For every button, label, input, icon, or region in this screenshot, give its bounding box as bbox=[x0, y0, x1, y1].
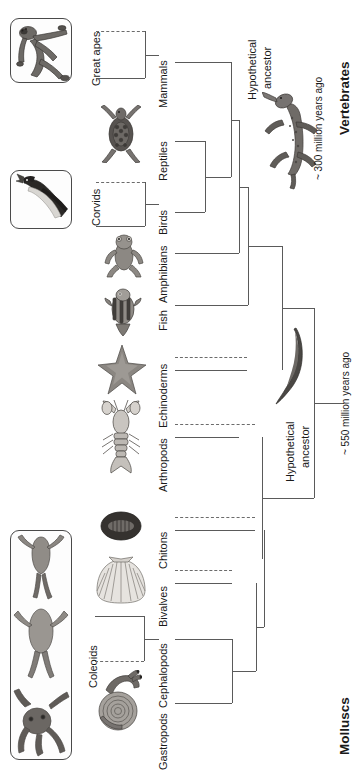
branch-fish bbox=[175, 305, 248, 306]
coleoids-photo bbox=[10, 530, 72, 760]
scallop-illustration bbox=[96, 556, 146, 606]
branch-birds bbox=[175, 212, 205, 213]
branch-mammals bbox=[175, 62, 231, 63]
tip-label-gastropods: Gastropods bbox=[158, 713, 169, 770]
tip-label-cephalopods: Cephalopods bbox=[158, 643, 169, 708]
node-vertebrates-stem bbox=[248, 246, 282, 247]
tip-label-fish: Fish bbox=[158, 310, 169, 331]
tip-label-echinoderms: Echinoderms bbox=[158, 364, 169, 428]
tip-label-mammals: Mammals bbox=[158, 60, 169, 108]
dashed-arthropods-extra bbox=[175, 424, 255, 425]
callout-coleoids-upper bbox=[95, 616, 144, 617]
tetrapod-reptile-illustration bbox=[262, 92, 318, 190]
node-amniotes-stem bbox=[231, 120, 239, 121]
group-title-molluscs: Molluscs bbox=[338, 697, 352, 755]
vertebrate-ancestor-label-line2: ancestor bbox=[262, 47, 273, 89]
callout-coleoids-dashed bbox=[95, 661, 144, 662]
turtle-illustration bbox=[100, 105, 142, 163]
frog-illustration bbox=[104, 232, 144, 278]
great-apes-photo bbox=[10, 18, 72, 83]
time-annotation-300my: ~ 300 million years ago bbox=[314, 77, 324, 180]
branch-cephalopods bbox=[175, 639, 232, 640]
tip-label-birds: Birds bbox=[158, 210, 169, 235]
snail-illustration bbox=[98, 670, 142, 732]
corvids-photo bbox=[10, 170, 72, 229]
node-molluscs bbox=[264, 530, 265, 627]
time-annotation-550my: ~ 550 million years ago bbox=[341, 352, 351, 455]
bilaterian-ancestor-label-line1: Hypothetical bbox=[285, 421, 296, 482]
dashed-chitons-extra bbox=[175, 517, 255, 518]
callout-great-apes-join bbox=[145, 55, 159, 56]
node-plus-bivalves-stem bbox=[256, 627, 264, 628]
branch-reptiles bbox=[175, 141, 205, 142]
branch-gastropods bbox=[175, 703, 232, 704]
node-tetrapods-stem bbox=[239, 187, 248, 188]
node-reptiles-birds-stem bbox=[205, 177, 231, 178]
callout-corvids-join bbox=[145, 204, 159, 205]
chiton-illustration bbox=[100, 508, 142, 544]
node-deuterostomes-stem bbox=[282, 308, 314, 309]
group-title-vertebrates: Vertebrates bbox=[338, 61, 352, 135]
branch-echinoderms bbox=[175, 370, 247, 371]
worm-illustration bbox=[274, 326, 308, 406]
tip-label-bivalves: Bivalves bbox=[158, 586, 169, 627]
node-cephalopods-gastropods-stem bbox=[232, 671, 256, 672]
bilaterian-ancestor-label-line2: ancestor bbox=[300, 426, 311, 468]
tip-label-amphibians: Amphibians bbox=[158, 246, 169, 303]
dashed-echinoderms-extra bbox=[175, 357, 247, 358]
branch-chitons bbox=[175, 530, 255, 531]
fish-illustration bbox=[104, 288, 142, 336]
callout-coleoids-join bbox=[144, 639, 159, 640]
lobster-illustration bbox=[98, 400, 144, 474]
tip-label-reptiles: Reptiles bbox=[158, 141, 169, 181]
callout-great-apes-lower bbox=[96, 78, 145, 79]
node-protostomes-stem bbox=[262, 498, 314, 499]
branch-bivalves bbox=[175, 583, 232, 584]
tip-label-arthropods: Arthropods bbox=[158, 438, 169, 492]
clade-label-corvids: Corvids bbox=[91, 189, 102, 226]
dashed-bivalves-extra bbox=[175, 570, 232, 571]
callout-great-apes-dashed bbox=[96, 31, 145, 32]
callout-corvids-dashed bbox=[96, 182, 145, 183]
tip-label-chitons: Chitons bbox=[158, 532, 169, 569]
vertebrate-ancestor-label-line1: Hypothetical bbox=[247, 39, 258, 100]
cladogram-figure: Great apes Corvids Coleoids bbox=[0, 0, 362, 777]
branch-amphibians bbox=[175, 253, 239, 254]
starfish-illustration bbox=[98, 344, 146, 396]
callout-corvids-lower bbox=[96, 226, 145, 227]
branch-arthropods bbox=[175, 437, 239, 438]
